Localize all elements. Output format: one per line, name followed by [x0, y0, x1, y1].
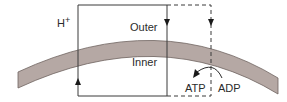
arrow-up-icon [75, 78, 81, 85]
arrow-down-dashed-icon [208, 19, 214, 26]
membrane-diagram: H+ Outer Inner ATP ADP [0, 0, 287, 102]
arrow-down-icon [164, 19, 170, 26]
adp-label: ADP [218, 82, 241, 94]
atp-label: ATP [185, 82, 206, 94]
ion-label: H+ [57, 15, 70, 29]
outer-label: Outer [130, 21, 158, 33]
inner-label: Inner [132, 56, 157, 68]
curved-arrow-adp-to-atp [197, 67, 222, 78]
